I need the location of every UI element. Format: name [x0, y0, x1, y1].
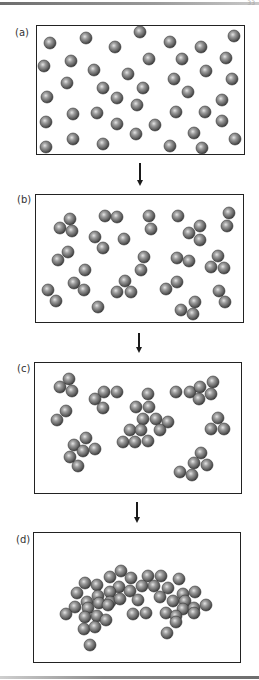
- particle: [135, 264, 147, 276]
- particle: [111, 118, 123, 130]
- particle: [150, 413, 162, 425]
- particle: [54, 381, 66, 393]
- down-arrow-icon: [136, 333, 142, 353]
- particle: [66, 385, 78, 397]
- particle: [80, 32, 92, 44]
- particle: [77, 445, 89, 457]
- particle: [221, 220, 233, 232]
- particle: [92, 301, 104, 313]
- particle: [91, 579, 103, 591]
- particle: [125, 286, 137, 298]
- particle: [118, 233, 130, 245]
- particle: [52, 254, 64, 266]
- particle: [130, 128, 142, 140]
- particle: [137, 82, 149, 94]
- particle: [67, 133, 79, 145]
- particle: [117, 436, 129, 448]
- particle: [130, 401, 142, 413]
- particle: [44, 37, 56, 49]
- particle: [216, 94, 228, 106]
- particle: [154, 591, 166, 603]
- particle: [143, 210, 155, 222]
- particle: [205, 261, 217, 273]
- particle: [154, 424, 166, 436]
- particle: [91, 107, 103, 119]
- particle: [175, 304, 187, 316]
- particle: [134, 26, 146, 38]
- particle: [183, 227, 195, 239]
- particle: [196, 142, 208, 154]
- particle: [200, 65, 212, 77]
- particle: [170, 386, 182, 398]
- particle: [223, 207, 235, 219]
- particle: [64, 213, 76, 225]
- particle: [71, 587, 83, 599]
- particle: [173, 573, 185, 585]
- particle: [188, 457, 200, 469]
- particle: [188, 127, 200, 139]
- particle: [194, 234, 206, 246]
- particle: [131, 99, 143, 111]
- particle: [161, 627, 173, 639]
- particle: [38, 60, 50, 72]
- particle: [51, 414, 63, 426]
- particle: [78, 623, 90, 635]
- particle: [170, 106, 182, 118]
- particle: [195, 41, 207, 53]
- particle: [142, 388, 154, 400]
- particle: [89, 621, 101, 633]
- particle: [182, 86, 194, 98]
- particle: [132, 594, 144, 606]
- particle: [213, 285, 225, 297]
- particle: [171, 252, 183, 264]
- particle: [160, 283, 172, 295]
- particle: [125, 572, 137, 584]
- particle: [111, 92, 123, 104]
- particle: [194, 381, 206, 393]
- particle: [88, 64, 100, 76]
- particle: [164, 36, 176, 48]
- particle: [97, 138, 109, 150]
- down-arrow-icon: [137, 163, 143, 186]
- particle: [79, 577, 91, 589]
- particle: [72, 460, 84, 472]
- particle: [122, 68, 134, 80]
- particle: [138, 251, 150, 263]
- particle: [171, 276, 183, 288]
- particle: [195, 447, 207, 459]
- particle: [84, 639, 96, 651]
- particle: [115, 565, 127, 577]
- particle: [40, 141, 52, 153]
- particle: [104, 571, 116, 583]
- particle: [41, 91, 53, 103]
- particle: [188, 607, 200, 619]
- particle: [60, 608, 72, 620]
- particle: [183, 255, 195, 267]
- particle: [145, 223, 157, 235]
- particle: [119, 275, 131, 287]
- particle: [226, 73, 238, 85]
- particle: [155, 570, 167, 582]
- particle: [164, 140, 176, 152]
- particles-layer: [0, 0, 259, 680]
- particle: [102, 599, 114, 611]
- particle: [66, 225, 78, 237]
- particle: [78, 284, 90, 296]
- particle: [172, 210, 184, 222]
- particle: [135, 424, 147, 436]
- particle: [109, 41, 121, 53]
- particle: [89, 231, 101, 243]
- particle: [148, 580, 160, 592]
- particle: [187, 308, 199, 320]
- particle: [205, 423, 217, 435]
- particle: [137, 413, 149, 425]
- particles-panel-a: [38, 26, 241, 154]
- stage-arrows: [134, 163, 143, 523]
- particle: [111, 386, 123, 398]
- particle: [218, 423, 230, 435]
- particle: [219, 296, 231, 308]
- particle: [114, 593, 126, 605]
- particle: [99, 210, 111, 222]
- down-arrow-icon: [134, 502, 140, 523]
- particle: [143, 401, 155, 413]
